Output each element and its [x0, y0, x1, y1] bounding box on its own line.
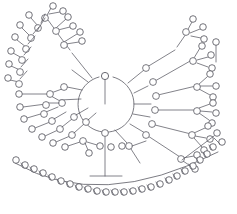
leaf-node[interactable] — [6, 61, 13, 68]
branch — [66, 42, 79, 44]
internal-node[interactable] — [194, 108, 201, 115]
internal-node[interactable] — [149, 121, 156, 128]
leaf-node[interactable] — [182, 168, 189, 175]
internal-node[interactable] — [194, 84, 201, 91]
leaf-node[interactable] — [197, 157, 204, 164]
leaf-node[interactable] — [79, 38, 86, 45]
internal-node[interactable] — [19, 57, 26, 64]
internal-node[interactable] — [53, 28, 60, 35]
leaf-node[interactable] — [157, 181, 164, 188]
internal-node[interactable] — [41, 111, 48, 118]
leaf-node[interactable] — [60, 8, 67, 15]
leaf-node[interactable] — [210, 100, 217, 107]
leaf-node[interactable] — [210, 144, 217, 151]
root-node[interactable] — [101, 72, 108, 79]
leaf-node[interactable] — [108, 144, 115, 151]
internal-node[interactable] — [126, 143, 133, 150]
leaf-node[interactable] — [204, 151, 211, 158]
leaf-node[interactable] — [12, 34, 19, 41]
branch — [148, 136, 180, 157]
leaf-node[interactable] — [86, 150, 93, 157]
leaf-node[interactable] — [207, 71, 214, 78]
leaf-node[interactable] — [200, 24, 207, 31]
internal-node[interactable] — [59, 100, 66, 107]
leaf-node[interactable] — [213, 39, 220, 46]
leaf-node[interactable] — [97, 143, 104, 150]
leaf-node[interactable] — [62, 144, 69, 151]
leaf-node[interactable] — [201, 36, 208, 43]
leaf-node[interactable] — [214, 130, 221, 137]
leaf-node[interactable] — [209, 65, 216, 72]
internal-node[interactable] — [143, 132, 150, 139]
internal-node[interactable] — [47, 91, 54, 98]
leaf-node[interactable] — [166, 177, 173, 184]
internal-node[interactable] — [17, 69, 24, 76]
leaf-node[interactable] — [130, 188, 137, 195]
leaf-node[interactable] — [77, 29, 84, 36]
internal-node[interactable] — [102, 130, 109, 137]
leaf-node[interactable] — [21, 116, 28, 123]
leaf-node[interactable] — [139, 186, 146, 193]
leaf-node[interactable] — [121, 189, 128, 196]
leaf-node[interactable] — [208, 52, 215, 59]
leaf-node[interactable] — [76, 184, 83, 191]
internal-node[interactable] — [190, 58, 197, 65]
internal-node[interactable] — [183, 29, 190, 36]
internal-node[interactable] — [189, 132, 196, 139]
leaf-node[interactable] — [50, 140, 57, 147]
leaf-node[interactable] — [219, 139, 226, 146]
leaf-node[interactable] — [58, 178, 65, 185]
leaf-node[interactable] — [17, 22, 24, 29]
internal-node[interactable] — [61, 42, 68, 49]
bottom-arc-clade — [13, 144, 218, 196]
internal-node[interactable] — [143, 65, 150, 72]
leaf-node[interactable] — [174, 173, 181, 180]
leaf-node[interactable] — [17, 104, 24, 111]
leaf-node[interactable] — [148, 184, 155, 191]
leaf-node[interactable] — [94, 188, 101, 195]
branch — [158, 86, 196, 95]
internal-node[interactable] — [43, 102, 50, 109]
leaf-node[interactable] — [26, 12, 33, 19]
branch — [200, 111, 212, 112]
leaf-node[interactable] — [70, 23, 77, 30]
leaf-node[interactable] — [29, 126, 36, 133]
leaf-node[interactable] — [40, 170, 47, 177]
branch — [88, 113, 96, 120]
leaf-node[interactable] — [5, 75, 12, 82]
branch — [147, 50, 175, 67]
leaf-node[interactable] — [199, 43, 206, 50]
leaf-node[interactable] — [22, 162, 29, 169]
leaf-node[interactable] — [49, 174, 56, 181]
leaf-node[interactable] — [31, 166, 38, 173]
branch — [35, 122, 50, 128]
leaf-node[interactable] — [16, 91, 23, 98]
leaf-node[interactable] — [205, 123, 212, 130]
branch — [130, 124, 145, 133]
leaf-node[interactable] — [67, 181, 74, 188]
leaf-node[interactable] — [85, 186, 92, 193]
leaf-node[interactable] — [65, 14, 72, 21]
internal-node[interactable] — [23, 46, 30, 53]
dendrogram-canvas[interactable] — [0, 0, 237, 214]
internal-node[interactable] — [61, 84, 68, 91]
internal-node[interactable] — [16, 81, 23, 88]
internal-node[interactable] — [150, 79, 157, 86]
leaf-node[interactable] — [50, 3, 57, 10]
leaf-node[interactable] — [112, 189, 119, 196]
leaf-node[interactable] — [190, 16, 197, 23]
leaf-node[interactable] — [213, 83, 220, 90]
leaf-node[interactable] — [119, 143, 126, 150]
leaf-node[interactable] — [190, 163, 197, 170]
leaf-node[interactable] — [39, 134, 46, 141]
branch — [133, 114, 150, 117]
leaf-node[interactable] — [213, 110, 220, 117]
leaf-node[interactable] — [8, 48, 15, 55]
internal-node[interactable] — [153, 93, 160, 100]
leaf-node[interactable] — [13, 157, 20, 164]
internal-node[interactable] — [152, 107, 159, 114]
branch — [68, 142, 80, 146]
branch — [74, 124, 84, 133]
leaf-node[interactable] — [103, 189, 110, 196]
branch — [194, 48, 200, 58]
